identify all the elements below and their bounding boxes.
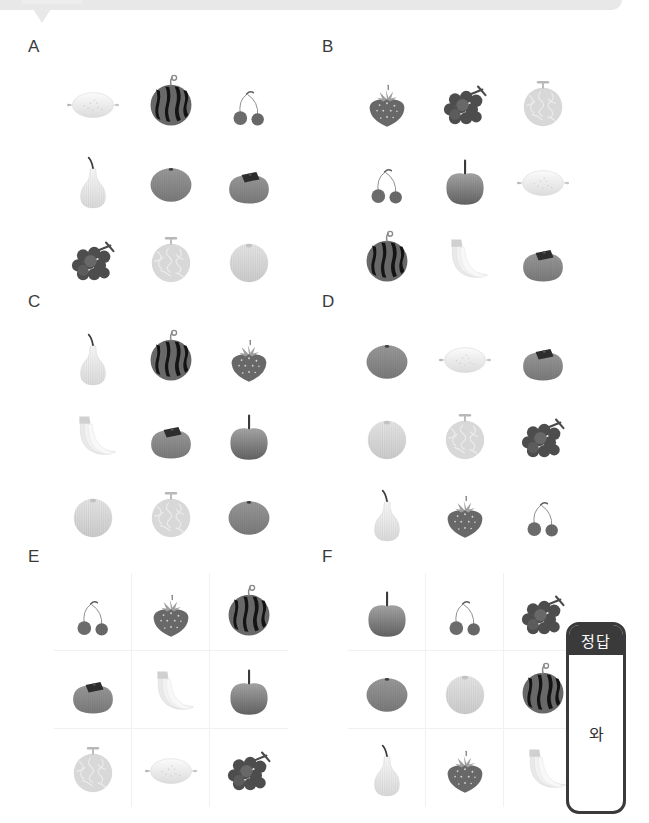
apple-icon: [218, 659, 280, 721]
fruit-cell-strawberry[interactable]: [426, 729, 504, 807]
panel-label-a: A: [28, 38, 40, 55]
fruit-cell-melon[interactable]: [54, 729, 132, 807]
fruit-cell-cherry[interactable]: [210, 63, 288, 141]
grapes-icon: [434, 71, 496, 133]
apple-icon: [434, 149, 496, 211]
pear-icon: [356, 482, 418, 544]
cherry-icon: [434, 581, 496, 643]
melon-icon: [62, 737, 124, 799]
page-root: A B C D E F 정답 와: [0, 0, 649, 823]
watermelon-icon: [140, 326, 202, 388]
cherry-icon: [512, 482, 574, 544]
fruit-cell-peach[interactable]: [426, 651, 504, 729]
fruit-cell-grapes[interactable]: [210, 729, 288, 807]
fruit-cell-strawberry[interactable]: [132, 573, 210, 651]
fruit-cell-watermelon[interactable]: [210, 573, 288, 651]
peach-icon: [434, 659, 496, 721]
pear-icon: [356, 737, 418, 799]
fruit-cell-lemon[interactable]: [54, 63, 132, 141]
fruit-cell-cherry[interactable]: [426, 573, 504, 651]
fruit-cell-grapes[interactable]: [426, 63, 504, 141]
fruit-cell-cherry[interactable]: [348, 141, 426, 219]
fruit-cell-melon[interactable]: [132, 219, 210, 297]
strawberry-icon: [434, 737, 496, 799]
fruit-cell-melon[interactable]: [504, 63, 582, 141]
fruit-cell-melon[interactable]: [426, 396, 504, 474]
grapes-icon: [62, 227, 124, 289]
fruit-cell-orange[interactable]: [348, 318, 426, 396]
fruit-cell-persimmon[interactable]: [132, 396, 210, 474]
apple-icon: [356, 581, 418, 643]
fruit-grid-panel-f: F: [322, 548, 602, 808]
panel-label-d: D: [322, 293, 335, 310]
fruit-grid-panel-c: C: [28, 293, 308, 548]
fruit-cell-orange[interactable]: [210, 474, 288, 552]
fruit-grid-panel-b: B: [322, 38, 602, 293]
answer-card-value: 와: [569, 655, 623, 811]
fruit-cell-orange[interactable]: [348, 651, 426, 729]
fruit-grid-f: [348, 573, 582, 807]
fruit-cell-cherry[interactable]: [504, 474, 582, 552]
fruit-cell-watermelon[interactable]: [132, 318, 210, 396]
fruit-cell-banana[interactable]: [426, 219, 504, 297]
top-banner-tail: [33, 9, 51, 23]
fruit-cell-cherry[interactable]: [54, 573, 132, 651]
watermelon-icon: [356, 227, 418, 289]
persimmon-icon: [512, 227, 574, 289]
melon-icon: [140, 482, 202, 544]
fruit-cell-peach[interactable]: [348, 396, 426, 474]
fruit-cell-persimmon[interactable]: [504, 219, 582, 297]
pear-icon: [62, 326, 124, 388]
fruit-cell-apple[interactable]: [348, 573, 426, 651]
fruit-cell-persimmon[interactable]: [54, 651, 132, 729]
fruit-cell-pear[interactable]: [54, 318, 132, 396]
orange-icon: [356, 659, 418, 721]
fruit-cell-persimmon[interactable]: [504, 318, 582, 396]
cherry-icon: [62, 581, 124, 643]
fruit-cell-peach[interactable]: [210, 219, 288, 297]
peach-icon: [62, 482, 124, 544]
fruit-cell-orange[interactable]: [132, 141, 210, 219]
fruit-cell-apple[interactable]: [210, 396, 288, 474]
fruit-cell-melon[interactable]: [132, 474, 210, 552]
fruit-grid-d: [348, 318, 582, 552]
fruit-cell-pear[interactable]: [54, 141, 132, 219]
fruit-cell-strawberry[interactable]: [210, 318, 288, 396]
fruit-cell-strawberry[interactable]: [348, 63, 426, 141]
watermelon-icon: [512, 659, 574, 721]
fruit-cell-banana[interactable]: [54, 396, 132, 474]
fruit-grid-a: [54, 63, 288, 297]
fruit-cell-watermelon[interactable]: [348, 219, 426, 297]
fruit-cell-persimmon[interactable]: [210, 141, 288, 219]
fruit-grid-panel-a: A: [28, 38, 308, 293]
fruit-grid-b: [348, 63, 582, 297]
panel-label-b: B: [322, 38, 334, 55]
apple-icon: [218, 404, 280, 466]
banana-icon: [512, 737, 574, 799]
fruit-cell-grapes[interactable]: [504, 396, 582, 474]
fruit-cell-pear[interactable]: [348, 729, 426, 807]
persimmon-icon: [512, 326, 574, 388]
lemon-icon: [512, 149, 574, 211]
fruit-cell-banana[interactable]: [132, 651, 210, 729]
pear-icon: [62, 149, 124, 211]
melon-icon: [434, 404, 496, 466]
banana-icon: [434, 227, 496, 289]
fruit-cell-pear[interactable]: [348, 474, 426, 552]
cherry-icon: [356, 149, 418, 211]
fruit-cell-grapes[interactable]: [54, 219, 132, 297]
panel-label-e: E: [28, 548, 40, 565]
fruit-cell-lemon[interactable]: [426, 318, 504, 396]
fruit-cell-apple[interactable]: [210, 651, 288, 729]
melon-icon: [140, 227, 202, 289]
fruit-cell-lemon[interactable]: [504, 141, 582, 219]
fruit-cell-lemon[interactable]: [132, 729, 210, 807]
top-banner-stub: [22, 0, 82, 4]
fruit-cell-strawberry[interactable]: [426, 474, 504, 552]
fruit-cell-peach[interactable]: [54, 474, 132, 552]
fruit-cell-apple[interactable]: [426, 141, 504, 219]
lemon-icon: [140, 737, 202, 799]
persimmon-icon: [218, 149, 280, 211]
fruit-cell-watermelon[interactable]: [132, 63, 210, 141]
strawberry-icon: [218, 326, 280, 388]
